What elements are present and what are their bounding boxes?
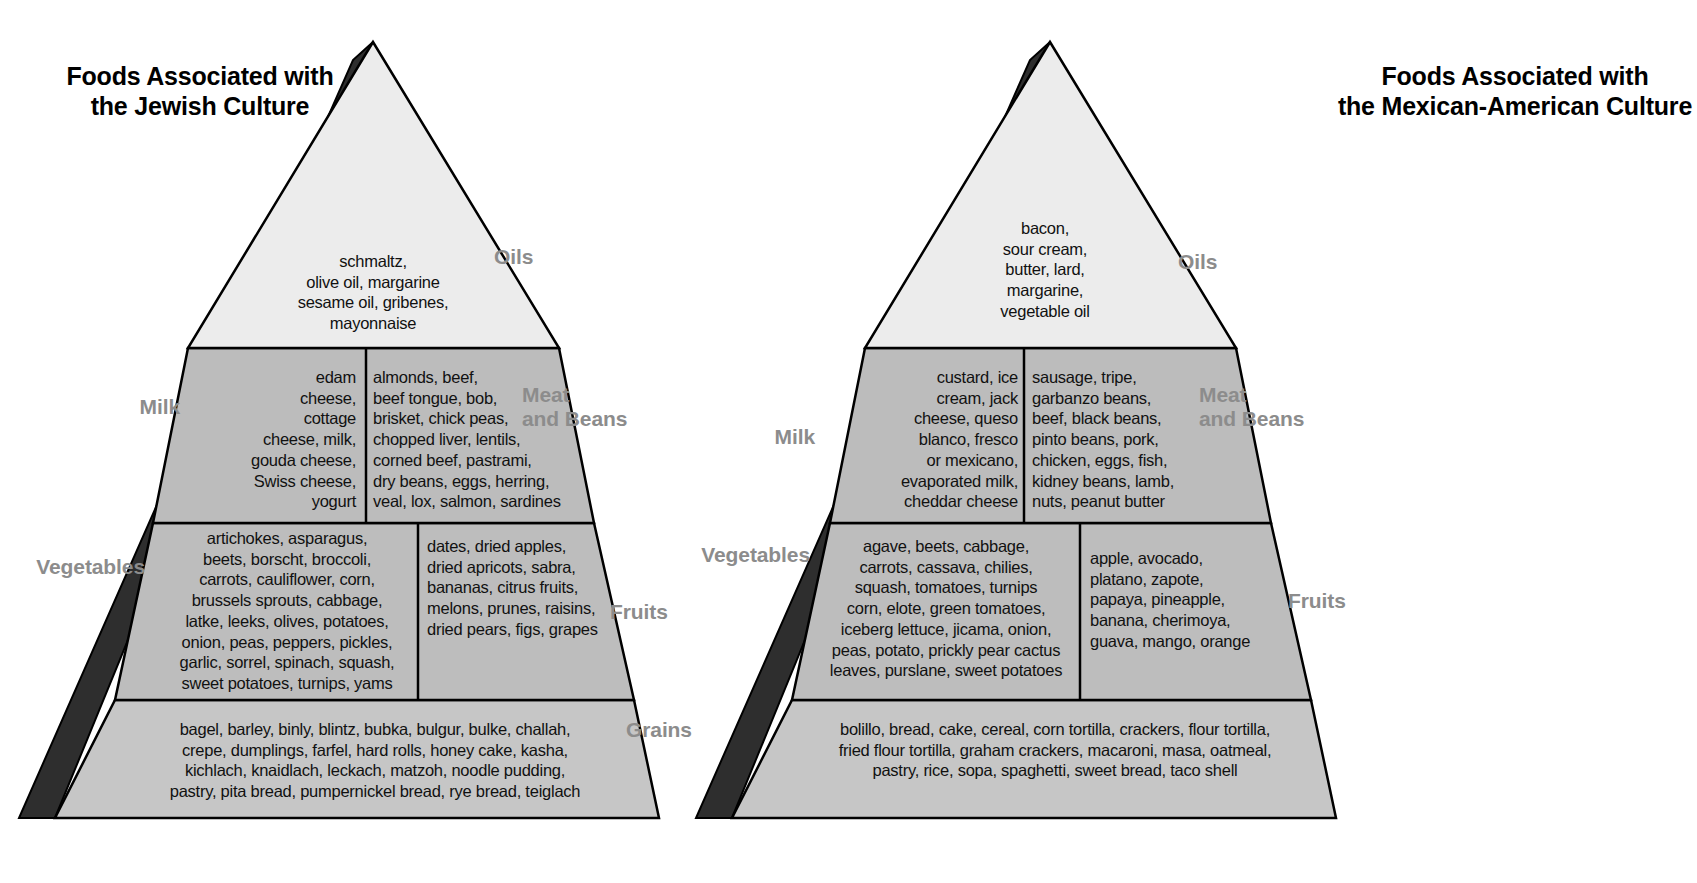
foods-grains: bolillo, bread, cake, cereal, corn torti… (790, 719, 1320, 781)
foods-oils: bacon, sour cream, butter, lard, margari… (960, 218, 1130, 322)
foods-fruits: apple, avocado, platano, zapote, papaya,… (1090, 548, 1276, 652)
label-grains: Grains (626, 718, 746, 742)
label-vegetables: Vegetables (0, 555, 145, 579)
foods-milk: custard, ice cream, jack cheese, queso b… (850, 367, 1018, 512)
foods-oils: schmaltz, olive oil, margarine sesame oi… (265, 251, 481, 334)
label-oils: Oils (494, 245, 533, 269)
pyramid-title-mexican-american: Foods Associated with the Mexican-Americ… (1330, 62, 1697, 121)
foods-fruits: dates, dried apples, dried apricots, sab… (427, 536, 617, 640)
label-fruits: Fruits (1288, 589, 1398, 613)
label-milk: Milk (735, 425, 815, 449)
pyramid-mexican-american: Foods Associated with the Mexican-Americ… (690, 0, 1390, 840)
label-oils: Oils (1178, 250, 1217, 274)
foods-grains: bagel, barley, binly, blintz, bubka, bul… (120, 719, 630, 802)
foods-meat-and-beans: almonds, beef, beef tongue, bob, brisket… (373, 367, 623, 512)
label-vegetables: Vegetables (645, 543, 810, 567)
foods-meat-and-beans: sausage, tripe, garbanzo beans, beef, bl… (1032, 367, 1252, 512)
foods-milk: edam cheese, cottage cheese, milk, gouda… (208, 367, 356, 512)
label-milk: Milk (100, 395, 180, 419)
pyramid-jewish: Foods Associated with the Jewish Culture… (0, 0, 700, 840)
foods-vegetables: artichokes, asparagus, beets, borscht, b… (163, 528, 411, 694)
foods-vegetables: agave, beets, cabbage, carrots, cassava,… (820, 536, 1072, 681)
pyramid-title-jewish: Foods Associated with the Jewish Culture (40, 62, 360, 121)
